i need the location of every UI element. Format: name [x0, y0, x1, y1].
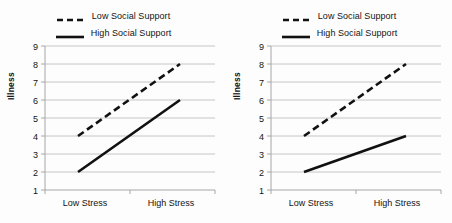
x-tick-low-stress: Low Stress	[281, 199, 341, 208]
left-panel: Low Social Support High Social Support I…	[0, 0, 226, 223]
x-tick-high-stress: High Stress	[366, 199, 428, 208]
x-tick-high-stress: High Stress	[140, 199, 202, 208]
plot-area	[226, 0, 452, 223]
right-panel: Low Social Support High Social Support I…	[226, 0, 452, 223]
x-tick-low-stress: Low Stress	[55, 199, 115, 208]
plot-area	[0, 0, 226, 223]
two-panel-line-chart-figure: Low Social Support High Social Support I…	[0, 0, 452, 223]
